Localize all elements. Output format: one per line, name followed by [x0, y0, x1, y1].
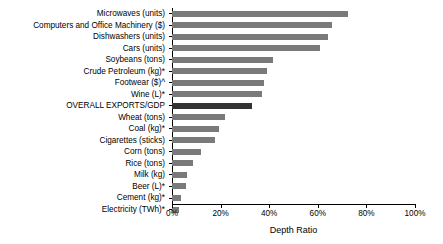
bar — [172, 183, 186, 189]
category-label: Footwear ($)^ — [0, 77, 169, 89]
bar — [172, 80, 264, 86]
bar-row — [172, 89, 415, 101]
bar-row — [172, 169, 415, 181]
category-tick-mark — [169, 174, 172, 175]
category-label: Coal (kg)* — [0, 123, 169, 135]
x-tick-label: 80% — [358, 209, 374, 218]
x-tick-mark — [221, 205, 222, 208]
category-label: Crude Petroleum (kg)* — [0, 66, 169, 78]
bar-row — [172, 43, 415, 55]
category-tick-mark — [169, 25, 172, 26]
category-label: Milk (kg) — [0, 169, 169, 181]
category-label: Dishwashers (units) — [0, 31, 169, 43]
category-label: Wheat (tons) — [0, 112, 169, 124]
bar-row — [172, 31, 415, 43]
bar — [172, 68, 267, 74]
category-tick-mark — [169, 140, 172, 141]
bar — [172, 126, 219, 132]
category-label: Rice (tons) — [0, 158, 169, 170]
x-tick-mark — [172, 205, 173, 208]
bar-row — [172, 158, 415, 170]
x-tick-label: 20% — [212, 209, 228, 218]
category-tick-mark — [169, 198, 172, 199]
bar-row — [172, 8, 415, 20]
bar-rows — [172, 8, 415, 204]
category-label: Computers and Office Machinery ($) — [0, 20, 169, 32]
category-label: Cars (units) — [0, 43, 169, 55]
category-tick-mark — [169, 105, 172, 106]
bar-row — [172, 192, 415, 204]
bar-row — [172, 66, 415, 78]
bar — [172, 91, 262, 97]
category-label: Corn (tons) — [0, 146, 169, 158]
category-label: Cigarettes (sticks) — [0, 135, 169, 147]
bar-row — [172, 20, 415, 32]
x-tick-mark — [366, 205, 367, 208]
category-tick-mark — [169, 163, 172, 164]
x-tick-label: 40% — [261, 209, 277, 218]
x-tick-label: 100% — [405, 209, 426, 218]
category-tick-mark — [169, 117, 172, 118]
x-axis-label: Depth Ratio — [172, 225, 415, 235]
bar — [172, 45, 320, 51]
bar — [172, 149, 201, 155]
bar-row — [172, 77, 415, 89]
category-label: Microwaves (units) — [0, 8, 169, 20]
bar — [172, 195, 181, 201]
bar — [172, 34, 328, 40]
x-tick-mark — [318, 205, 319, 208]
x-tick-label: 60% — [310, 209, 326, 218]
category-label: Cement (kg)* — [0, 192, 169, 204]
bar — [172, 137, 215, 143]
category-tick-mark — [169, 186, 172, 187]
bar-row — [172, 54, 415, 66]
bar — [172, 172, 187, 178]
bar-row — [172, 112, 415, 124]
category-tick-mark — [169, 94, 172, 95]
category-tick-mark — [169, 48, 172, 49]
category-label: Beer (L)* — [0, 181, 169, 193]
category-tick-mark — [169, 59, 172, 60]
bar-row — [172, 181, 415, 193]
x-axis-ticks: 0%20%40%60%80%100% — [172, 205, 415, 221]
category-tick-mark — [169, 36, 172, 37]
category-tick-mark — [169, 151, 172, 152]
category-tick-mark — [169, 128, 172, 129]
category-tick-mark — [169, 13, 172, 14]
category-label: Wine (L)* — [0, 89, 169, 101]
x-tick-label: 0% — [166, 209, 178, 218]
bar-row — [172, 135, 415, 147]
bar — [172, 22, 332, 28]
x-tick-mark — [269, 205, 270, 208]
bar — [172, 103, 252, 109]
bar-row — [172, 123, 415, 135]
bar — [172, 11, 348, 17]
x-tick-mark — [415, 205, 416, 208]
bar-row — [172, 146, 415, 158]
category-label: Soybeans (tons) — [0, 54, 169, 66]
category-tick-mark — [169, 82, 172, 83]
bar-row — [172, 100, 415, 112]
category-label: Electricity (TWh)* — [0, 204, 169, 216]
category-label: OVERALL EXPORTS/GDP — [0, 100, 169, 112]
category-tick-mark — [169, 71, 172, 72]
bar-chart: Microwaves (units)Computers and Office M… — [0, 0, 443, 244]
plot-area — [172, 8, 415, 204]
bar — [172, 114, 225, 120]
bar — [172, 57, 273, 63]
bar — [172, 160, 193, 166]
category-axis-labels: Microwaves (units)Computers and Office M… — [0, 8, 169, 204]
